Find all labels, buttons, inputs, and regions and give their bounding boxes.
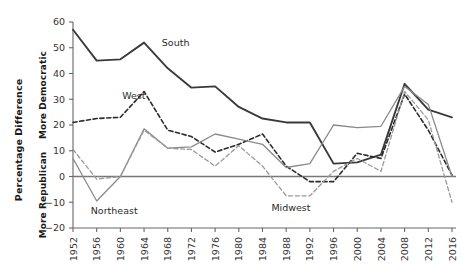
x-axis-tick-label: 1964 [139, 237, 150, 261]
x-axis: 1952195619601964196819721976198019841988… [68, 228, 458, 261]
series-annotations: SouthWestNortheastMidwest [91, 37, 311, 215]
line-chart: Percentage Difference More Democratic Mo… [0, 0, 461, 279]
y-axis-tick-label: −10 [45, 197, 65, 208]
x-axis-tick-label: 1976 [210, 237, 221, 261]
y-axis-tick-label: 30 [53, 94, 65, 105]
y-axis-title: Percentage Difference [13, 79, 24, 201]
x-axis-tick-label: 1980 [233, 237, 244, 261]
x-axis-tick-label: 1960 [115, 237, 126, 261]
x-axis-tick-label: 1968 [162, 237, 173, 261]
series-label-midwest: Midwest [271, 202, 310, 213]
chart-container: Percentage Difference More Democratic Mo… [0, 0, 461, 279]
y-axis-tick-label: −20 [45, 222, 65, 233]
y-axis-tick-label: 60 [53, 16, 65, 27]
axis-title-group: Percentage Difference More Democratic Mo… [13, 51, 48, 238]
series-line-midwest [73, 92, 452, 203]
x-axis-tick-label: 2008 [399, 237, 410, 261]
series-label-northeast: Northeast [91, 205, 138, 216]
y-axis-tick-label: 10 [53, 145, 65, 156]
y-axis-upper-direction-label: More Democratic [38, 51, 48, 139]
x-axis-tick-label: 2000 [352, 237, 363, 261]
series-line-northeast [73, 86, 452, 201]
x-axis-tick-label: 2016 [447, 237, 458, 261]
x-axis-tick-label: 1952 [68, 237, 79, 261]
x-axis-tick-label: 2012 [423, 237, 434, 261]
x-axis-tick-label: 2004 [376, 237, 387, 261]
x-axis-tick-label: 1996 [328, 237, 339, 261]
y-axis-tick-label: 40 [53, 68, 65, 79]
y-axis-tick-label: 0 [59, 171, 65, 182]
series-line-west [73, 92, 452, 182]
x-axis-tick-label: 1988 [281, 237, 292, 261]
series-label-south: South [162, 37, 190, 48]
x-axis-tick-label: 1992 [304, 237, 315, 261]
x-axis-tick-label: 1984 [257, 237, 268, 261]
x-axis-tick-label: 1972 [186, 237, 197, 261]
x-axis-tick-label: 1956 [91, 237, 102, 261]
y-axis-tick-label: 20 [53, 119, 65, 130]
y-axis-tick-label: 50 [53, 42, 65, 53]
y-axis: −20−100102030405060 [45, 16, 73, 233]
series-label-west: West [122, 90, 146, 101]
